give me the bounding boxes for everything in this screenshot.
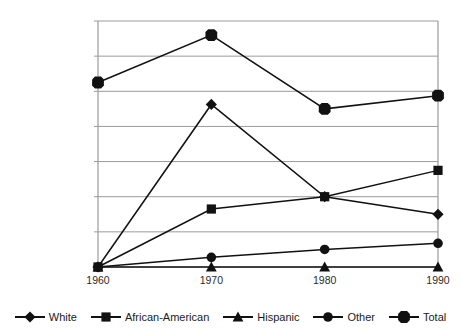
series-line bbox=[98, 35, 438, 109]
series-line bbox=[98, 104, 438, 267]
plot-area: 140,000.00120,000.00100,000.0080,000.006… bbox=[0, 0, 461, 292]
x-axis-tick-label: 1990 bbox=[426, 274, 449, 286]
line-chart: 140,000.00120,000.00100,000.0080,000.006… bbox=[0, 0, 461, 334]
data-point-marker bbox=[433, 238, 443, 248]
data-point-marker bbox=[205, 29, 217, 41]
legend-marker-square-icon bbox=[91, 310, 121, 324]
legend-item-white[interactable]: White bbox=[8, 310, 84, 324]
data-point-marker bbox=[319, 103, 331, 115]
legend-label: Hispanic bbox=[257, 311, 299, 323]
legend-marker-octagon-icon bbox=[389, 310, 419, 324]
series-line bbox=[98, 170, 438, 267]
x-axis-tick-label: 1970 bbox=[200, 274, 223, 286]
x-axis-tick-label: 1960 bbox=[86, 274, 109, 286]
series-total bbox=[92, 29, 444, 115]
legend-label: African-American bbox=[125, 311, 209, 323]
data-point-marker bbox=[398, 311, 410, 323]
legend-label: Other bbox=[347, 311, 375, 323]
data-point-marker bbox=[432, 90, 444, 102]
legend-marker-circle-icon bbox=[313, 310, 343, 324]
legend-item-african-american[interactable]: African-American bbox=[84, 310, 216, 324]
data-point-marker bbox=[24, 311, 35, 322]
chart-legend: WhiteAfrican-AmericanHispanicOtherTotal bbox=[0, 300, 461, 334]
series-african-american bbox=[93, 166, 442, 272]
data-point-marker bbox=[101, 312, 110, 321]
legend-label: White bbox=[49, 311, 77, 323]
y-axis-tick-labels: 140,000.00120,000.00100,000.0080,000.006… bbox=[0, 0, 96, 292]
legend-item-other[interactable]: Other bbox=[306, 310, 382, 324]
data-point-marker bbox=[233, 312, 244, 322]
series-line bbox=[98, 243, 438, 267]
x-axis-tick-labels: 1960197019801990 bbox=[0, 268, 461, 292]
data-point-marker bbox=[320, 192, 329, 201]
data-point-marker bbox=[207, 204, 216, 213]
data-point-marker bbox=[433, 166, 442, 175]
x-axis-tick-label: 1980 bbox=[313, 274, 336, 286]
data-point-marker bbox=[432, 209, 443, 220]
legend-marker-triangle-icon bbox=[223, 310, 253, 324]
legend-label: Total bbox=[423, 311, 446, 323]
data-point-marker bbox=[207, 253, 217, 263]
data-point-marker bbox=[324, 312, 334, 322]
legend-marker-diamond-icon bbox=[15, 310, 45, 324]
legend-item-total[interactable]: Total bbox=[382, 310, 453, 324]
legend-item-hispanic[interactable]: Hispanic bbox=[216, 310, 306, 324]
data-point-marker bbox=[320, 245, 330, 255]
